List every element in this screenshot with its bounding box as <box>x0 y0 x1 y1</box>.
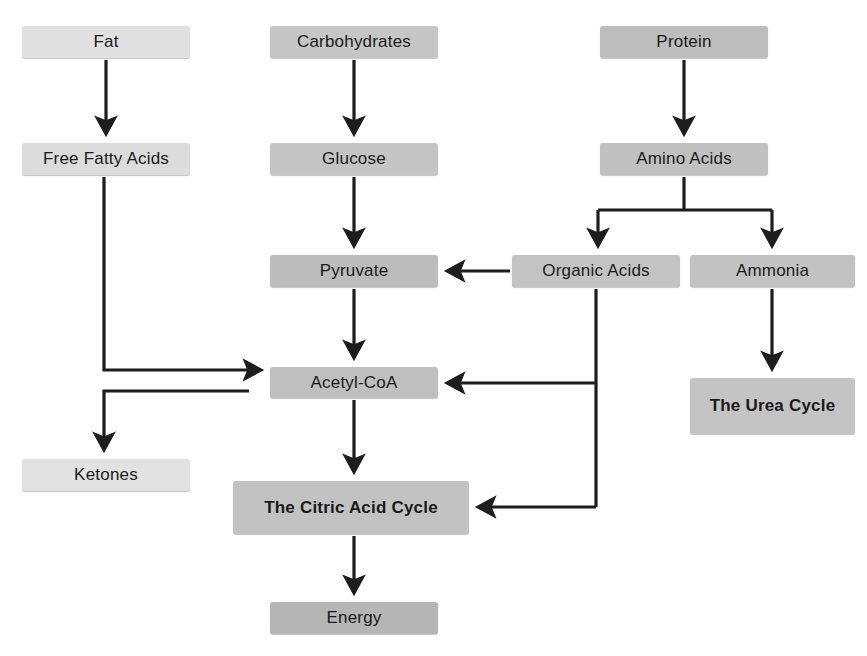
node-organic-acids[interactable]: Organic Acids <box>512 255 680 287</box>
node-free-fatty-acids[interactable]: Free Fatty Acids <box>22 143 190 175</box>
node-organic-acids-label: Organic Acids <box>542 262 649 280</box>
node-energy[interactable]: Energy <box>270 602 438 634</box>
node-glucose-label: Glucose <box>322 150 386 168</box>
node-free-fatty-acids-label: Free Fatty Acids <box>43 150 169 168</box>
node-ammonia-label: Ammonia <box>736 262 809 280</box>
node-ammonia[interactable]: Ammonia <box>690 255 855 287</box>
node-amino-acids-label: Amino Acids <box>636 150 732 168</box>
node-the-urea-cycle-label: The Urea Cycle <box>710 397 836 415</box>
node-pyruvate-label: Pyruvate <box>320 262 389 280</box>
node-pyruvate[interactable]: Pyruvate <box>270 255 438 287</box>
node-protein-label: Protein <box>656 33 711 51</box>
node-fat[interactable]: Fat <box>22 26 190 58</box>
edge-acetyl-coa-to-ketones <box>104 391 249 450</box>
node-energy-label: Energy <box>326 609 381 627</box>
node-fat-label: Fat <box>93 33 118 51</box>
node-citric-acid-cycle-label: The Citric Acid Cycle <box>264 499 438 517</box>
node-glucose[interactable]: Glucose <box>270 143 438 175</box>
node-amino-acids[interactable]: Amino Acids <box>600 143 768 175</box>
node-acetyl-coa-label: Acetyl-CoA <box>310 374 397 392</box>
flowchart-connectors <box>0 0 867 656</box>
node-ketones[interactable]: Ketones <box>22 459 190 491</box>
edge-free-fatty-acids-to-acetyl-coa <box>104 177 261 370</box>
node-citric-acid-cycle[interactable]: The Citric Acid Cycle <box>233 481 469 534</box>
metabolism-flowchart: Fat Carbohydrates Protein Free Fatty Aci… <box>0 0 867 656</box>
node-protein[interactable]: Protein <box>600 26 768 58</box>
node-the-urea-cycle[interactable]: The Urea Cycle <box>690 378 855 434</box>
node-carbohydrates-label: Carbohydrates <box>297 33 411 51</box>
node-carbohydrates[interactable]: Carbohydrates <box>270 26 438 58</box>
node-ketones-label: Ketones <box>74 466 138 484</box>
node-acetyl-coa[interactable]: Acetyl-CoA <box>270 367 438 398</box>
